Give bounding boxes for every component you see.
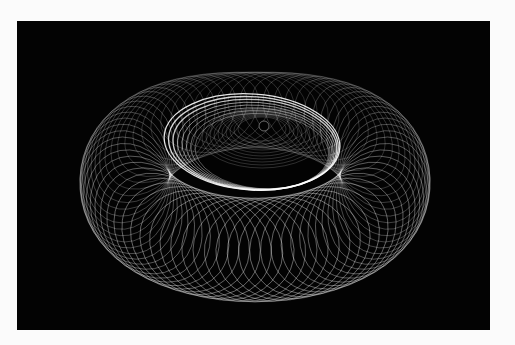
torus-artwork: [17, 21, 490, 330]
light-torus-photo: [17, 21, 490, 330]
